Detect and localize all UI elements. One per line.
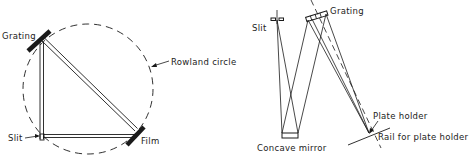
ray: [277, 20, 282, 133]
label-plate-holder: Plate holder: [373, 112, 428, 121]
slit-arrowhead: [35, 134, 40, 138]
concave-mirror-mount-diagram: [271, 0, 390, 148]
slit-jaw-right: [279, 18, 284, 21]
horizontal-rail: [43, 135, 135, 138]
label-rail-for-plate-holder: Rail for plate holder: [378, 133, 468, 142]
label-slit-left: Slit: [8, 134, 23, 143]
label-grating-left: Grating: [2, 32, 36, 41]
ray: [312, 19, 369, 133]
label-concave-mirror: Concave mirror: [257, 144, 327, 153]
concave-mirror: [282, 133, 298, 138]
ray: [308, 20, 369, 133]
ray: [298, 14, 326, 133]
label-slit-right: Slit: [252, 24, 267, 33]
ray: [326, 14, 369, 133]
grating-normal: [311, 0, 381, 148]
rowland-mount-diagram: [23, 24, 169, 154]
label-grating-right: Grating: [330, 7, 364, 16]
label-film: Film: [141, 137, 159, 146]
rowland-arrowhead: [151, 63, 157, 67]
slit-jaw-left: [271, 18, 276, 21]
diagonal-rail: [42, 39, 138, 132]
label-rowland-circle: Rowland circle: [171, 58, 237, 67]
vertical-rail: [40, 42, 44, 139]
